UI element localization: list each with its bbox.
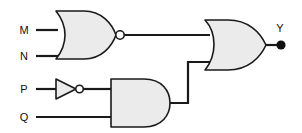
output-label-y: Y xyxy=(276,22,284,34)
gate-or-1[interactable] xyxy=(205,20,266,70)
nor-gate-body xyxy=(56,11,116,59)
input-label-p: P xyxy=(20,83,27,95)
output-terminal-dot xyxy=(276,40,285,49)
circuit-canvas: M N P Q Y xyxy=(0,0,302,133)
input-label-n: N xyxy=(20,50,28,62)
or-gate-body xyxy=(205,20,266,70)
logic-circuit-diagram: M N P Q Y xyxy=(0,0,302,133)
not-inversion-bubble-icon xyxy=(76,85,84,93)
nor-inversion-bubble-icon xyxy=(116,31,124,39)
gate-not-1[interactable] xyxy=(56,79,83,99)
wire-and-to-or xyxy=(170,62,210,103)
and-gate-body xyxy=(111,79,170,127)
not-gate-body xyxy=(56,79,76,99)
input-label-q: Q xyxy=(20,111,29,123)
gate-and-1[interactable] xyxy=(111,79,170,127)
input-label-m: M xyxy=(19,24,28,36)
gate-nor-1[interactable] xyxy=(56,11,124,59)
